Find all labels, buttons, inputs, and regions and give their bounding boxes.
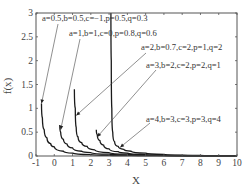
series-curve-4: [96, 130, 237, 156]
annotation-label-4: a=3,b=2,c=2,p=2,q=1: [146, 60, 221, 70]
annotation-label-3: a=2,b=0.7,c=2,p=1,q=2: [141, 42, 222, 52]
x-tick-label: 7: [180, 158, 185, 168]
y-tick-label: 2: [28, 56, 33, 66]
x-tick-label: 9: [216, 158, 221, 168]
y-tick-label: 1: [28, 103, 33, 113]
x-tick-label: 3: [107, 158, 112, 168]
annotation-arrow-1: [41, 24, 58, 104]
annotation-label-5: a=4,b=3,c=3,p=3,q=4: [146, 114, 222, 124]
x-tick-label: 10: [232, 158, 242, 168]
x-tick-label: -1: [32, 158, 40, 168]
x-tick-label: 1: [70, 158, 75, 168]
y-axis-title: f(x): [1, 77, 14, 94]
arrowhead-icon: [41, 99, 45, 103]
annotation-arrow-2: [61, 39, 80, 130]
annotation-arrow-4: [97, 70, 156, 137]
annotation-label-1: a=0.5,b=0.5,c=−1,p=0.5,q=0.3: [42, 13, 147, 23]
x-tick-label: 8: [198, 158, 203, 168]
x-tick-label: 4: [125, 158, 130, 168]
arrowhead-icon: [120, 143, 124, 147]
annotation-label-2: a=1,b=1,c=0,p=0.8,q=0.6: [69, 28, 157, 38]
annotation-arrow-5: [120, 123, 150, 147]
x-tick-label: 6: [162, 158, 167, 168]
x-tick-label: 5: [143, 158, 148, 168]
annotations: a=0.5,b=0.5,c=−1,p=0.5,q=0.3a=1,b=1,c=0,…: [42, 13, 222, 124]
y-tick-label: 2.5: [21, 32, 33, 42]
annotation-arrows: [41, 24, 156, 147]
beta-density-chart: a=0.5,b=0.5,c=−1,p=0.5,q=0.3a=1,b=1,c=0,…: [0, 0, 252, 188]
x-axis-title: X: [132, 174, 140, 186]
series-curve-2: [60, 125, 237, 156]
x-tick-label: 2: [88, 158, 93, 168]
y-tick-label: 1.5: [21, 80, 33, 90]
x-tick-label: 0: [52, 158, 57, 168]
y-tick-label: 3: [28, 8, 33, 18]
y-tick-label: 0.5: [21, 127, 33, 137]
y-tick-label: 0: [28, 151, 33, 161]
